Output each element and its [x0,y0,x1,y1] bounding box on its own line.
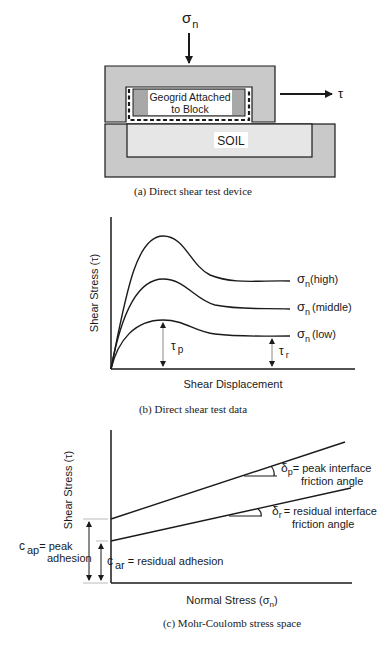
soil-label: SOIL [217,134,245,148]
caption-a: (a) Direct shear test device [134,185,252,198]
panel-a-direct-shear-device: σn SOIL Geogrid Attached to Block τ (a) … [105,9,344,198]
residual-angle-label-line2: friction angle [292,518,354,530]
residual-adhesion-label: car= residual adhesion [107,554,224,571]
geogrid-label-line1: Geogrid Attached [149,91,230,103]
shear-force-label: τ [338,86,344,101]
peak-adhesion-label-line2: adhesion [47,552,92,564]
curve-high [111,236,290,369]
curve-low [111,320,290,369]
y-axis-label-c: Shear Stress (τ) [62,451,74,529]
panel-b-shear-test-data: Shear Stress (τ) Shear Displacement σn(h… [88,217,355,416]
residual-angle-arc [258,509,261,516]
peak-angle-arc [271,466,274,476]
residual-stress-label: τr [279,344,289,360]
caption-b: (b) Direct shear test data [139,403,247,416]
caption-c: (c) Mohr-Coulomb stress space [163,617,301,630]
geogrid-label-line2: to Block [171,103,209,115]
normal-load-label: σn [182,9,198,30]
panel-c-mohr-coulomb: Shear Stress (τ) Normal Stress (σn) δp= … [19,430,377,630]
x-axis-label-c: Normal Stress (σn) [186,594,277,609]
curve-label-middle: σn(middle) [297,299,352,317]
y-axis-label-b: Shear Stress (τ) [88,254,100,332]
curve-label-low: σn(low) [297,326,336,344]
x-axis-label-b: Shear Displacement [183,378,282,390]
peak-angle-label-line2: friction angle [301,475,363,487]
peak-stress-label: τp [171,339,184,355]
figure: σn SOIL Geogrid Attached to Block τ (a) … [0,0,386,653]
curve-middle [111,279,290,369]
curve-label-high: σn(high) [297,271,338,289]
